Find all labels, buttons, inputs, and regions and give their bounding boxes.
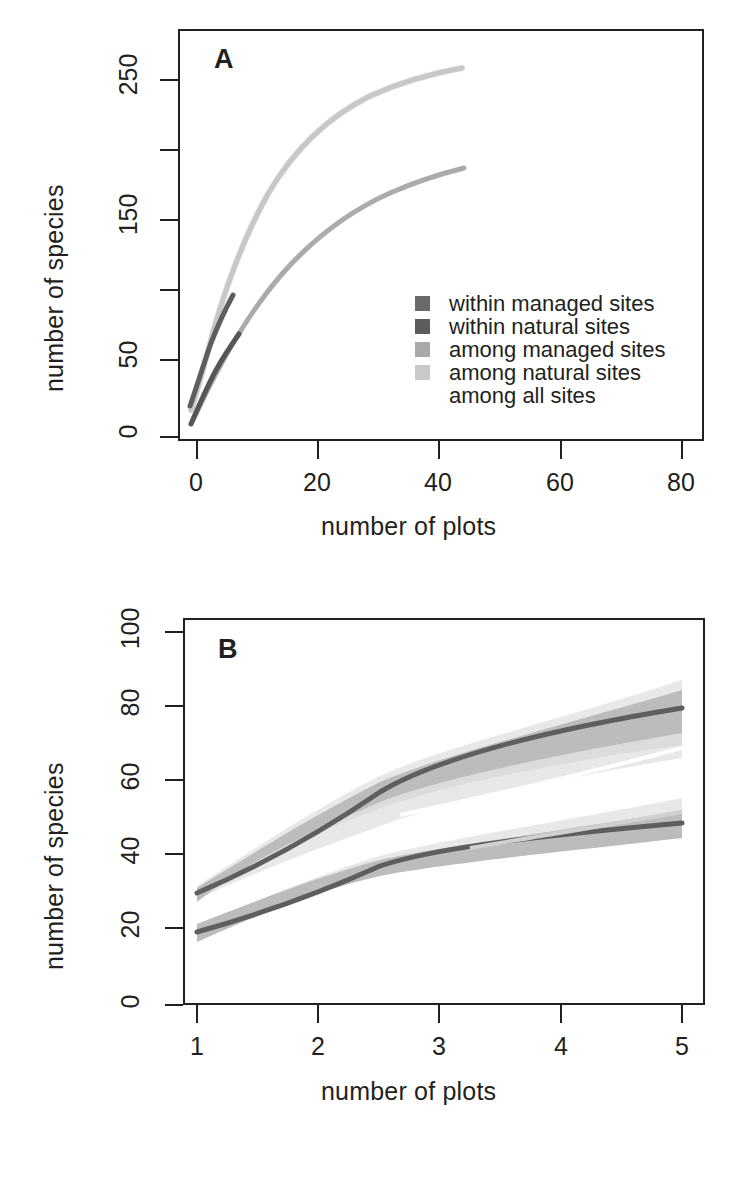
panel-a-xtick-40: 40 (413, 468, 463, 497)
panel-a-xtick-mark-20 (317, 441, 319, 459)
panel-b: number of species 0 20 40 60 80 100 B (0, 570, 738, 1192)
panel-b-xtick-mark-3 (438, 1005, 440, 1023)
panel-a-x-axis-label: number of plots (321, 512, 496, 541)
legend-label-within-natural: within natural sites (449, 315, 630, 338)
legend-swatch-among-all-icon (415, 388, 430, 403)
legend-swatch-among-natural-icon (415, 365, 430, 380)
panel-a-xtick-80: 80 (656, 468, 706, 497)
panel-b-xtick-5: 5 (662, 1032, 702, 1061)
legend-swatch-within-managed-icon (415, 296, 430, 311)
panel-a-xtick-mark-0 (196, 441, 198, 459)
panel-a-xtick-20: 20 (292, 468, 342, 497)
legend-swatch-within-natural-icon (415, 319, 430, 334)
panel-a-legend: within managed sites within natural site… (415, 292, 665, 407)
panel-b-xtick-4: 4 (541, 1032, 581, 1061)
figure-root: number of species 0 50 150 250 A (0, 0, 738, 1192)
panel-a-xtick-60: 60 (535, 468, 585, 497)
panel-b-xtick-mark-5 (681, 1005, 683, 1023)
panel-b-xtick-mark-2 (317, 1005, 319, 1023)
legend-item-among-managed: among managed sites (415, 338, 665, 361)
legend-item-within-managed: within managed sites (415, 292, 665, 315)
panel-b-xtick-mark-1 (196, 1005, 198, 1023)
legend-label-among-all: among all sites (449, 384, 596, 407)
panel-a-xtick-mark-80 (681, 441, 683, 459)
panel-b-xtick-3: 3 (419, 1032, 459, 1061)
legend-label-within-managed: within managed sites (449, 292, 654, 315)
panel-a-xtick-0: 0 (176, 468, 216, 497)
panel-b-xtick-1: 1 (177, 1032, 217, 1061)
panel-b-xtick-mark-4 (560, 1005, 562, 1023)
legend-label-among-natural: among natural sites (449, 361, 641, 384)
panel-b-xtick-2: 2 (298, 1032, 338, 1061)
legend-swatch-among-managed-icon (415, 342, 430, 357)
legend-label-among-managed: among managed sites (449, 338, 665, 361)
panel-a-curves (0, 0, 738, 570)
panel-a-xtick-mark-60 (560, 441, 562, 459)
panel-a-xtick-mark-40 (438, 441, 440, 459)
legend-item-within-natural: within natural sites (415, 315, 665, 338)
legend-item-among-natural: among natural sites (415, 361, 665, 384)
panel-a: number of species 0 50 150 250 A (0, 0, 738, 570)
panel-b-x-axis-label: number of plots (321, 1077, 496, 1106)
legend-item-among-all: among all sites (415, 384, 665, 407)
